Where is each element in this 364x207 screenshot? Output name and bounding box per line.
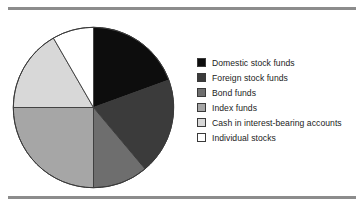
legend-swatch-bond-funds: [197, 88, 206, 97]
pie-chart-svg: [12, 26, 175, 189]
pie-slice: [13, 108, 93, 188]
pie-slice-group: [13, 27, 173, 187]
pie-chart-figure: Domestic stock fundsForeign stock fundsB…: [0, 0, 364, 207]
legend-item-label: Bond funds: [212, 88, 256, 98]
legend-swatch-index-funds: [197, 103, 206, 112]
top-divider-rule: [8, 7, 356, 10]
legend-item-label: Cash in interest-bearing accounts: [212, 118, 342, 128]
legend-item[interactable]: Domestic stock funds: [197, 55, 362, 70]
pie-chart: [12, 26, 175, 189]
legend-swatch-individual-stocks: [197, 133, 206, 142]
legend-item[interactable]: Cash in interest-bearing accounts: [197, 115, 362, 130]
legend-item-label: Index funds: [212, 103, 257, 113]
legend-item[interactable]: Bond funds: [197, 85, 362, 100]
bottom-divider-rule: [8, 196, 356, 199]
legend-item[interactable]: Individual stocks: [197, 130, 362, 145]
legend-item[interactable]: Foreign stock funds: [197, 70, 362, 85]
chart-legend: Domestic stock fundsForeign stock fundsB…: [197, 55, 362, 145]
legend-item-label: Domestic stock funds: [212, 58, 295, 68]
legend-swatch-foreign-stock-funds: [197, 73, 206, 82]
legend-item[interactable]: Index funds: [197, 100, 362, 115]
legend-item-label: Foreign stock funds: [212, 73, 288, 83]
legend-swatch-domestic-stock-funds: [197, 58, 206, 67]
legend-swatch-cash-interest-bearing-accounts: [197, 118, 206, 127]
legend-item-label: Individual stocks: [212, 133, 276, 143]
